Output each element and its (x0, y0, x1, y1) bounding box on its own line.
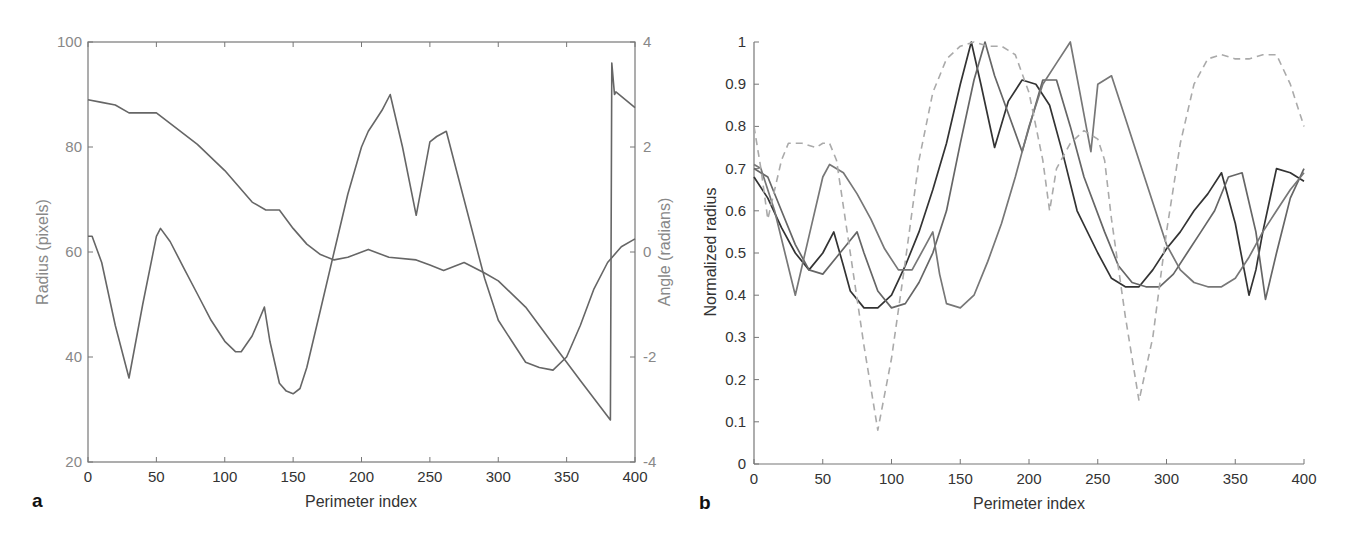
y-tick-label: 0.8 (725, 117, 746, 134)
y-tick-label: 0.5 (725, 244, 746, 261)
y-tick-label: 20 (65, 453, 82, 470)
y-tick-label-right: 4 (643, 33, 651, 50)
y-tick-label: 1 (738, 33, 746, 50)
y-tick-label: 0 (738, 455, 746, 472)
y-tick-label: 80 (65, 138, 82, 155)
x-tick-label: 250 (1085, 470, 1110, 487)
y-tick-label-right: 0 (643, 243, 651, 260)
x-tick-label: 350 (554, 468, 579, 485)
panel-a-letter: a (32, 490, 43, 511)
y-tick-label: 60 (65, 243, 82, 260)
series-1 (754, 42, 1304, 308)
x-tick-label: 200 (349, 468, 374, 485)
x-tick-label: 400 (1291, 470, 1316, 487)
x-tick-label: 150 (281, 468, 306, 485)
panel-a-y-axis-title-left: Radius (pixels) (34, 199, 51, 305)
panel-a-series (88, 63, 635, 420)
y-tick-label-right: -4 (643, 453, 656, 470)
x-tick-label: 300 (1154, 470, 1179, 487)
panel-b: 050100150200250300350400 00.10.20.30.40.… (699, 33, 1317, 513)
x-tick-label: 0 (84, 468, 92, 485)
panel-b-x-axis-title: Perimeter index (973, 495, 1085, 512)
figure: 050100150200250300350400 20406080100 -4-… (0, 0, 1356, 536)
x-tick-label: 200 (1016, 470, 1041, 487)
y-tick-label: 40 (65, 348, 82, 365)
x-tick-label: 250 (417, 468, 442, 485)
y-tick-label: 0.3 (725, 328, 746, 345)
y-tick-label: 0.9 (725, 75, 746, 92)
panel-a-x-ticks: 050100150200250300350400 (84, 42, 648, 485)
x-tick-label: 0 (750, 470, 758, 487)
x-tick-label: 50 (148, 468, 165, 485)
x-tick-label: 350 (1223, 470, 1248, 487)
panel-b-letter: b (699, 492, 711, 513)
x-tick-label: 300 (486, 468, 511, 485)
panel-a-y-axis-title-right: Angle (radians) (656, 198, 673, 307)
x-tick-label: 100 (879, 470, 904, 487)
series-4 (754, 42, 1304, 430)
y-tick-label: 0.2 (725, 371, 746, 388)
x-tick-label: 100 (212, 468, 237, 485)
y-tick-label: 0.7 (725, 160, 746, 177)
y-tick-label: 0.6 (725, 202, 746, 219)
y-tick-label-right: -2 (643, 348, 656, 365)
x-tick-label: 150 (948, 470, 973, 487)
series-radius (88, 95, 635, 394)
y-tick-label: 100 (57, 33, 82, 50)
x-tick-label: 400 (622, 468, 647, 485)
y-tick-label: 0.4 (725, 286, 746, 303)
panel-b-x-ticks: 050100150200250300350400 (750, 459, 1317, 487)
panel-a-x-axis-title: Perimeter index (305, 493, 417, 510)
y-tick-label-right: 2 (643, 138, 651, 155)
panel-b-series (754, 42, 1304, 430)
panel-a: 050100150200250300350400 20406080100 -4-… (32, 33, 673, 511)
panel-a-y-ticks-right: -4-2024 (630, 33, 656, 470)
x-tick-label: 50 (814, 470, 831, 487)
y-tick-label: 0.1 (725, 413, 746, 430)
panel-b-y-axis-title: Normalized radius (702, 188, 719, 317)
